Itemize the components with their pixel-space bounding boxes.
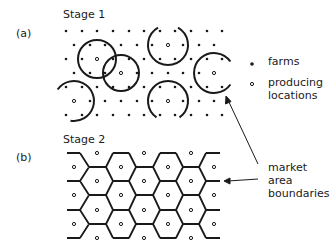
producing-location-dot [95, 208, 98, 211]
producing-location-dot [142, 179, 145, 182]
farm-dot [89, 72, 92, 75]
producing-location-dot [212, 71, 215, 74]
arrow-to-stage1-boundary [226, 96, 259, 164]
farm-dot [96, 114, 99, 117]
panel-a-title: Stage 1 [63, 9, 105, 21]
farm-dot [198, 100, 201, 103]
farm-dot [190, 58, 193, 61]
producing-location-dot [119, 165, 122, 168]
farm-dot [206, 86, 209, 89]
producing-location-dot [72, 99, 75, 102]
farm-dot [159, 58, 162, 61]
farm-dot [182, 100, 185, 103]
producing-location-dot [119, 222, 122, 225]
farm-dot [112, 114, 115, 117]
legend-producing-label-2: locations [268, 90, 317, 102]
farm-dot [151, 100, 154, 103]
producing-location-dot [166, 222, 169, 225]
producing-location-dot [95, 236, 98, 239]
stage1-market-circles [58, 28, 231, 121]
farm-dot [73, 44, 76, 47]
producing-location-dot [72, 165, 75, 168]
annotation-area: area [268, 175, 293, 187]
farm-dot [143, 30, 146, 33]
farm-dot [65, 86, 68, 89]
panel-a-label: (a) [16, 28, 31, 40]
producing-location-dot [95, 57, 98, 60]
producing-location-dot [189, 236, 192, 239]
farm-dot [89, 100, 92, 103]
farm-dot [190, 86, 193, 89]
panel-b-title: Stage 2 [63, 134, 105, 146]
farm-dot [198, 44, 201, 47]
farm-dot [206, 30, 209, 33]
farm-dot [143, 86, 146, 89]
farm-dot [198, 72, 201, 75]
legend-producing-location-icon [250, 82, 253, 85]
producing-location-dot [72, 193, 75, 196]
farm-dot [104, 72, 107, 75]
farm-dot [206, 114, 209, 117]
farm-dot [174, 30, 177, 33]
producing-location-dot [142, 236, 145, 239]
farm-dot [182, 72, 185, 75]
farm-dot [213, 44, 216, 47]
farm-dot [190, 30, 193, 33]
farm-dot [221, 30, 224, 33]
farm-dot [96, 30, 99, 33]
farm-dot [206, 58, 209, 61]
producing-location-dot [189, 179, 192, 182]
producing-location-dot [189, 151, 192, 154]
arrow-to-stage2-boundary [224, 178, 258, 184]
farm-dot [89, 44, 92, 47]
producing-location-dot [212, 193, 215, 196]
farm-dot [190, 114, 193, 117]
annotation-market: market [268, 162, 307, 174]
farm-dot [65, 58, 68, 61]
farm-dot [213, 100, 216, 103]
farm-dot [81, 58, 84, 61]
farm-dot [128, 30, 131, 33]
producing-location-dot [189, 208, 192, 211]
farm-dot [96, 86, 99, 89]
farm-dot [167, 72, 170, 75]
producing-location-dot [166, 165, 169, 168]
producing-location-dot [119, 193, 122, 196]
hexagon-edges [67, 153, 220, 238]
farm-dot [174, 58, 177, 61]
producing-location-dot [166, 43, 169, 46]
farm-dot [143, 58, 146, 61]
panel-b-label: (b) [16, 152, 32, 164]
producing-location-dot [95, 179, 98, 182]
farm-dot [128, 114, 131, 117]
central-place-diagram [0, 0, 334, 251]
farm-dot [112, 30, 115, 33]
producing-location-dot [142, 208, 145, 211]
farm-dot [221, 114, 224, 117]
farm-dot [151, 72, 154, 75]
farm-dot [120, 100, 123, 103]
legend-farms-label: farms [268, 56, 299, 68]
farm-dot [143, 114, 146, 117]
farm-dot [221, 58, 224, 61]
legend-producing-label-1: producing [268, 77, 323, 89]
annotation-boundaries: boundaries [268, 188, 329, 200]
farm-dot [151, 44, 154, 47]
farm-dot [136, 100, 139, 103]
farm-dot [159, 86, 162, 89]
farm-dot [174, 114, 177, 117]
farm-dot [182, 44, 185, 47]
producing-location-dot [119, 71, 122, 74]
farm-dot [136, 44, 139, 47]
farm-dot [104, 100, 107, 103]
farm-dot [73, 72, 76, 75]
farm-dot [81, 114, 84, 117]
legend-farm-dot-icon [250, 62, 254, 66]
producing-location-dot [212, 165, 215, 168]
farm-dot [174, 86, 177, 89]
producing-location-dot [166, 99, 169, 102]
farm-dot [120, 44, 123, 47]
stage2-hexagon-boundaries [67, 153, 220, 238]
producing-location-dot [142, 151, 145, 154]
farm-dot [65, 114, 68, 117]
